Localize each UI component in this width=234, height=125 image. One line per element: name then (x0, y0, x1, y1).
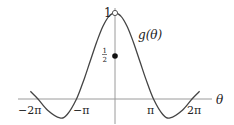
tick-label-neg-pi: −π (73, 104, 89, 117)
y-label-half-numerator: 1 (103, 47, 107, 55)
tick-label-two-pi: 2π (187, 104, 201, 117)
open-circle-point (112, 10, 117, 15)
y-label-half-denominator: 2 (103, 56, 107, 64)
tick-label-pi: π (147, 104, 154, 117)
chart-canvas: 1 1 2 g(θ) θ −2π −π π 2π (0, 0, 234, 125)
curve-label: g(θ) (138, 28, 163, 42)
tick-label-neg-two-pi: −2π (18, 104, 41, 117)
y-label-one: 1 (104, 6, 112, 20)
filled-dot-point (112, 53, 118, 59)
x-axis-label: θ (216, 93, 224, 107)
